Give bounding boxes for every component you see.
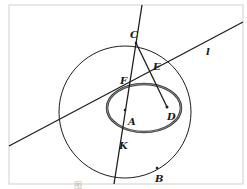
label-f: F [119, 75, 128, 86]
ellipse-inner-highlight [107, 84, 181, 132]
label-e: E [152, 61, 161, 72]
figure-caption: 图 [74, 181, 82, 189]
point-d-dot [166, 106, 169, 109]
point-c-dot [135, 42, 138, 45]
label-b: B [154, 173, 163, 184]
point-a-dot [124, 109, 127, 112]
label-d: D [166, 111, 176, 122]
label-c: C [130, 29, 138, 40]
figure-frame [9, 5, 243, 184]
point-b-dot [156, 167, 159, 170]
label-l: l [206, 46, 210, 57]
geometry-figure: C E F A D K B l 图 [0, 0, 247, 189]
label-a: A [127, 116, 136, 127]
segment-cd [136, 43, 167, 107]
label-k: K [118, 140, 129, 151]
